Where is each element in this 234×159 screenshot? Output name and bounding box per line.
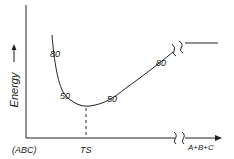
x-axis-left-label: (ABC) [12,145,37,155]
x-axis-right-label: A+B+C [187,143,214,152]
axis-break-icon [182,132,184,144]
x-axis-arrow-icon [215,135,222,141]
energy-diagram-svg: Energy 80 50 50 80 (ABC) TS A+B+C [0,0,234,159]
curve-break-icon [172,44,176,56]
curve-label-80-right: 80 [156,58,166,68]
y-axis-label: Energy [8,71,20,107]
energy-diagram: Energy 80 50 50 80 (ABC) TS A+B+C [0,0,234,159]
energy-arrow-icon [12,44,17,50]
curve-label-50-right: 50 [107,94,117,104]
curve-label-50-left: 50 [60,91,70,101]
ts-label: TS [80,145,92,155]
curve-break-icon [179,41,183,53]
curve-label-80-left: 80 [50,49,60,59]
